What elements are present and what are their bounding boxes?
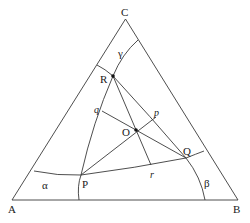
point-r-dot: [111, 74, 115, 78]
ternary-diagram: A B C R O Q P q p r α β γ: [0, 0, 250, 223]
beta-boundary-lower: [186, 158, 205, 200]
region-gamma-label: γ: [117, 47, 123, 59]
rq-line: [113, 76, 186, 158]
foot-p-label: p: [153, 107, 159, 118]
point-p-label: P: [82, 178, 88, 190]
point-r-label: R: [100, 73, 108, 85]
point-q-label: Q: [183, 145, 191, 157]
foot-r-label: r: [150, 169, 154, 180]
vertex-b-label: B: [233, 203, 240, 215]
line-q-to-q: [102, 111, 186, 158]
vertex-a-label: A: [8, 203, 16, 215]
foot-q-label: q: [94, 104, 99, 115]
point-o-label: O: [122, 126, 130, 138]
gamma-boundary-right: [113, 40, 138, 76]
region-beta-label: β: [204, 177, 210, 189]
alpha-boundary-lower: [78, 175, 81, 200]
vertex-c-label: C: [121, 6, 128, 18]
region-alpha-label: α: [42, 179, 48, 191]
alpha-boundary-upper: [34, 171, 81, 175]
pr-curve: [81, 76, 113, 175]
pq-curve: [81, 158, 186, 175]
line-p-to-p: [81, 117, 156, 175]
point-o-dot: [134, 128, 138, 132]
